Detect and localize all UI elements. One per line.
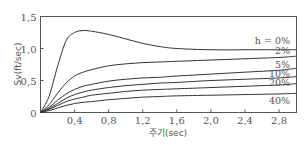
x-tick-label: 2,0 (203, 115, 219, 126)
x-tick-label: 1,6 (169, 115, 185, 126)
x-tick-label: 2,8 (271, 115, 287, 126)
y-tick-label: 1,5 (21, 12, 37, 23)
curve-h2 (41, 56, 297, 112)
curve-label: 2% (275, 45, 290, 56)
response-spectrum-chart: 0,40,81,21,62,02,42,8 00,51,01,5 h = 0%2… (0, 0, 307, 145)
x-tick-label: 1,2 (135, 115, 151, 126)
x-tick-label: 2,4 (237, 115, 253, 126)
x-tick-label: 0,4 (67, 115, 83, 126)
curve-label: 40% (269, 95, 290, 106)
curve-labels: h = 0%2%5%10%20%40% (255, 35, 290, 106)
curve-h5 (41, 68, 297, 112)
x-axis-ticks: 0,40,81,21,62,02,42,8 (67, 110, 287, 126)
x-axis-label: 주기(sec) (149, 128, 187, 138)
curve-h40 (41, 93, 297, 112)
y-axis-label: Sv(ft/sec) (13, 43, 23, 86)
curve-label: 20% (269, 77, 290, 88)
y-tick-label: 0 (30, 108, 36, 119)
x-tick-label: 0,8 (101, 115, 117, 126)
